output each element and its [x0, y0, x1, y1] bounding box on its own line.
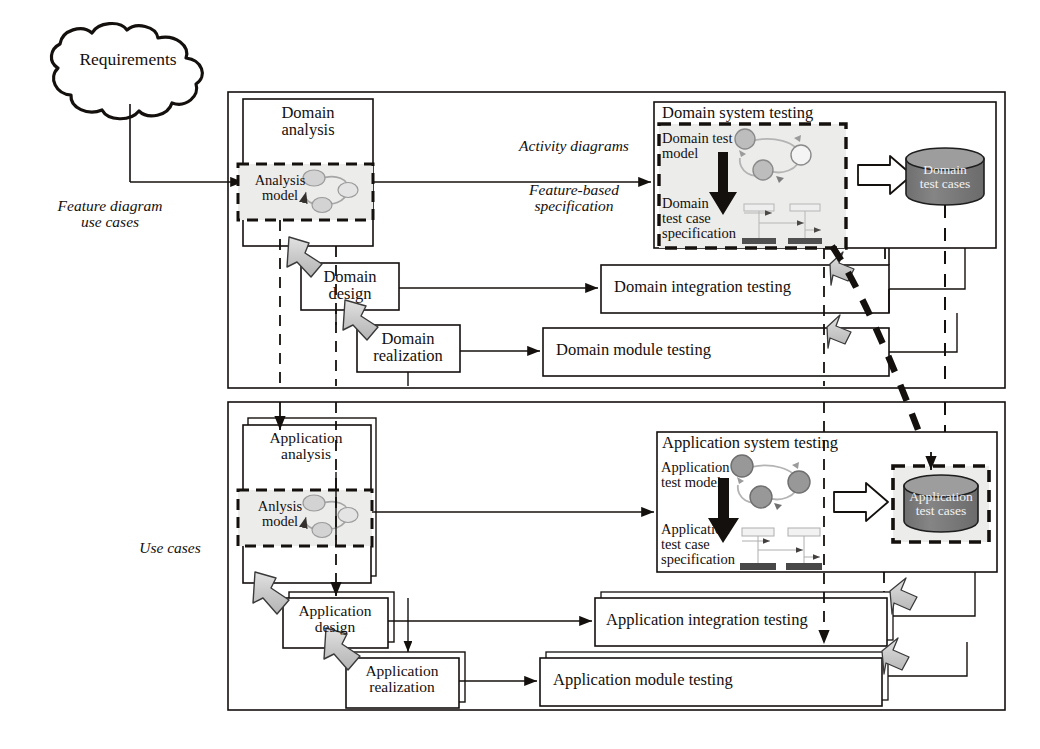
database-cylinder-icon — [906, 148, 984, 205]
database-cylinder-icon — [904, 475, 978, 532]
application-integration-testing-box — [595, 598, 887, 646]
application-realization-box — [346, 658, 459, 708]
application-module-testing-box — [540, 658, 882, 706]
cloud-icon — [51, 24, 202, 119]
diagram-vector-layer — [0, 0, 1040, 749]
figure-canvas: Requirements Feature diagram use cases A… — [0, 0, 1040, 749]
